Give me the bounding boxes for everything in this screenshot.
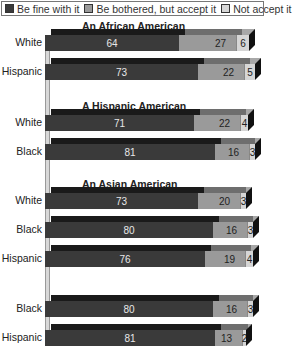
bar-segment-fine: 64	[45, 35, 179, 51]
bar-segment-notaccept: 3	[247, 301, 253, 317]
legend-item-fine: Be fine with it	[5, 3, 79, 15]
bar-segment-notaccept: 4	[240, 115, 248, 131]
legend-item-bothered: Be bothered, but accept it	[84, 3, 216, 15]
bar-segment-fine: 80	[45, 301, 213, 317]
bar-segment-bothered: 22	[194, 115, 240, 131]
row-label: Black	[16, 223, 42, 235]
row-label: White	[15, 194, 42, 206]
bar-segment-fine: 76	[45, 251, 205, 267]
bar-segment-fine: 73	[45, 64, 198, 80]
row-label: Black	[16, 302, 42, 314]
bar-segment-bothered: 22	[198, 64, 244, 80]
bar-segment-bothered: 13	[215, 330, 242, 346]
bar-segment-bothered: 16	[213, 301, 247, 317]
bar-segment-fine: 81	[45, 144, 215, 160]
row-label: White	[15, 116, 42, 128]
bar-segment-bothered: 20	[198, 193, 240, 209]
legend-label: Be fine with it	[17, 3, 79, 15]
row-label: White	[15, 36, 42, 48]
legend-label: Be bothered, but accept it	[96, 3, 216, 15]
legend-item-notaccept: Not accept it	[221, 3, 291, 15]
bar-segment-bothered: 16	[213, 222, 247, 238]
legend: Be fine with it Be bothered, but accept …	[1, 1, 264, 16]
legend-swatch-bothered	[84, 4, 93, 13]
bar-segment-notaccept: 5	[244, 64, 255, 80]
row-label: Hispanic	[2, 331, 42, 343]
bar-segment-bothered: 16	[215, 144, 249, 160]
legend-swatch-fine	[5, 4, 14, 13]
bar-segment-fine: 73	[45, 193, 198, 209]
bar-segment-fine: 81	[45, 330, 215, 346]
legend-label: Not accept it	[233, 3, 291, 15]
bar-segment-notaccept: 3	[240, 193, 246, 209]
axis-line	[45, 36, 50, 336]
bar-segment-fine: 71	[45, 115, 194, 131]
row-label: Hispanic	[2, 252, 42, 264]
row-label: Hispanic	[2, 65, 42, 77]
bar-segment-notaccept: 6	[236, 35, 249, 51]
bar-segment-notaccept: 3	[249, 144, 255, 160]
row-label: Black	[16, 145, 42, 157]
bar-segment-notaccept: 4	[245, 251, 253, 267]
bar-segment-notaccept: 2	[242, 330, 246, 346]
legend-swatch-notaccept	[221, 4, 230, 13]
bar-segment-bothered: 27	[179, 35, 236, 51]
bar-segment-bothered: 19	[205, 251, 245, 267]
bar-segment-fine: 80	[45, 222, 213, 238]
bar-segment-notaccept: 3	[247, 222, 253, 238]
